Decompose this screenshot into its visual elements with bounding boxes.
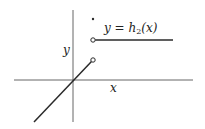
filled-dot [92,18,94,20]
y-axis-label: y [62,43,70,57]
x-axis-label: x [110,81,117,95]
open-circle-lower [91,58,95,62]
function-label: y = h2(x) [103,21,158,36]
open-circle-upper [91,38,95,42]
function-graph: y = h2(x) y x [0,0,205,129]
diagonal-segment [34,62,92,123]
